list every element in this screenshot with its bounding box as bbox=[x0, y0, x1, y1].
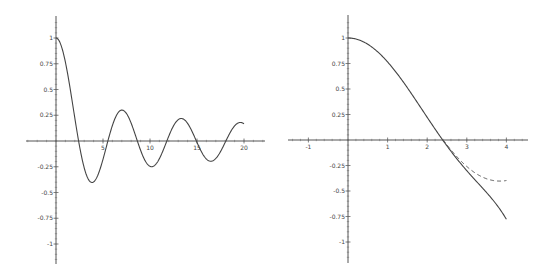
x-tick-label: 5 bbox=[101, 144, 105, 151]
y-tick-label: 0.25 bbox=[332, 111, 346, 118]
y-tick-label: 0.25 bbox=[40, 111, 54, 118]
right-chart-taylor-vs-j0: 10.750.50.25-0.25-0.5-0.75-1-11234 bbox=[288, 15, 528, 263]
y-tick-label: 0.5 bbox=[43, 86, 53, 93]
y-tick-label: 0.75 bbox=[40, 60, 54, 67]
x-tick-label: 1 bbox=[386, 143, 390, 150]
y-tick-label: -0.5 bbox=[333, 187, 345, 194]
y-tick-label: -0.5 bbox=[41, 189, 53, 196]
x-tick-label: 4 bbox=[504, 143, 508, 150]
x-tick-label: 2 bbox=[425, 143, 429, 150]
y-tick-label: -1 bbox=[47, 240, 53, 247]
y-tick-label: 1 bbox=[341, 34, 345, 41]
y-tick-label: 1 bbox=[49, 34, 53, 41]
x-tick-label: -1 bbox=[305, 143, 311, 150]
left-chart-bessel-j0: 10.750.50.25-0.25-0.5-0.75-15101520 bbox=[26, 16, 265, 264]
y-tick-label: -0.25 bbox=[329, 162, 345, 169]
y-tick-label: 0.5 bbox=[335, 85, 345, 92]
chart-canvas: 10.750.50.25-0.25-0.5-0.75-15101520 10.7… bbox=[0, 0, 553, 280]
y-tick-label: -0.75 bbox=[37, 214, 53, 221]
left-series-j0-curve bbox=[56, 38, 244, 182]
right-series-taylor-curve bbox=[348, 38, 506, 219]
y-tick-label: -0.25 bbox=[37, 163, 53, 170]
x-tick-label: 3 bbox=[465, 143, 469, 150]
y-tick-label: -1 bbox=[339, 238, 345, 245]
x-tick-label: 20 bbox=[240, 144, 248, 151]
y-tick-label: -0.75 bbox=[329, 213, 345, 220]
x-tick-label: 10 bbox=[146, 144, 154, 151]
y-tick-label: 0.75 bbox=[332, 60, 346, 67]
right-series-j0-dashed-curve bbox=[443, 140, 506, 181]
